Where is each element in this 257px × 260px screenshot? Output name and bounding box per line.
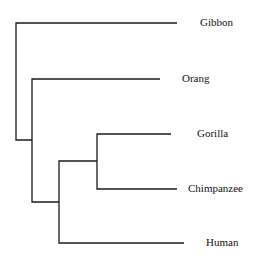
hominine-node-branch (59, 161, 184, 243)
orang-node-branch (32, 79, 160, 202)
phylogenetic-tree: Gibbon Orang Gorilla Chimpanzee Human (0, 0, 257, 260)
taxon-label-gorilla: Gorilla (197, 127, 228, 139)
taxon-label-orang: Orang (182, 72, 210, 84)
root-branch (16, 23, 177, 140)
taxon-label-chimpanzee: Chimpanzee (188, 182, 243, 194)
taxon-label-human: Human (206, 236, 239, 248)
taxon-label-gibbon: Gibbon (200, 16, 234, 28)
gorilla-chimp-node-branch (97, 134, 177, 189)
